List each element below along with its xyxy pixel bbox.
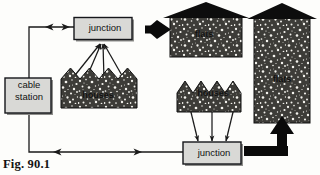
flats-small-body — [170, 17, 242, 57]
zigzag-roof-icon — [177, 81, 241, 112]
houses-left — [61, 68, 137, 108]
flats-tall-body — [254, 18, 310, 123]
junction-bottom-box — [183, 142, 241, 164]
house-roof-icon — [247, 3, 317, 19]
line-station-to-top-junction — [29, 27, 74, 78]
zigzag-roof-icon — [61, 68, 137, 108]
house-roof-icon — [163, 2, 249, 18]
thick-arrow-icon-top-junction-to-flats — [145, 20, 171, 39]
line-station-to-bottom-junction — [29, 113, 183, 152]
junction-top-box — [74, 18, 132, 40]
flats-tall — [247, 3, 317, 123]
figure-canvas: junction junction cable station houses h… — [0, 0, 320, 175]
fan-top-junction-to-houses — [72, 44, 124, 79]
figure-caption: Fig. 90.1 — [3, 157, 50, 172]
network-diagram — [0, 0, 320, 175]
flats-small — [163, 2, 249, 57]
cable-station-box — [5, 78, 51, 113]
houses-middle — [177, 81, 241, 112]
